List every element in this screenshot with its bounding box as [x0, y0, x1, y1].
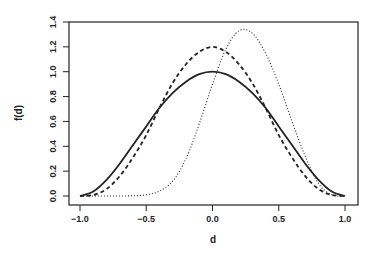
plot-frame [69, 22, 358, 205]
x-tick-label: 0.0 [206, 214, 219, 224]
x-tick-label: −1.0 [71, 214, 89, 224]
y-tick-label: 1.2 [48, 41, 58, 54]
y-tick-label: 0.2 [48, 165, 58, 178]
series-group [80, 29, 345, 196]
y-tick-label: 1.4 [48, 16, 58, 29]
x-axis: −1.0−0.50.00.51.0 [71, 205, 351, 224]
x-tick-label: 1.0 [339, 214, 352, 224]
y-tick-label: 0.0 [48, 190, 58, 203]
y-tick-label: 0.4 [48, 140, 58, 153]
x-tick-label: −0.5 [137, 214, 155, 224]
y-axis: 0.00.20.40.60.81.01.21.4 [48, 16, 69, 203]
y-tick-label: 0.8 [48, 90, 58, 103]
y-tick-label: 0.6 [48, 115, 58, 128]
y-tick-label: 1.0 [48, 65, 58, 78]
density-chart: 0.00.20.40.60.81.01.21.4 −1.0−0.50.00.51… [0, 0, 373, 257]
curve-dashed [80, 47, 345, 196]
curve-dotted [80, 29, 345, 196]
x-axis-title: d [210, 234, 216, 245]
x-tick-label: 0.5 [272, 214, 285, 224]
y-axis-title: f(d) [13, 105, 24, 121]
